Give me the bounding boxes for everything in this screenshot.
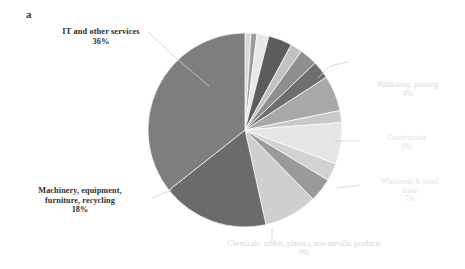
callout-pct-publishing-printing: 4% — [356, 90, 460, 99]
callout-pct-machinery-equipment: 18% — [14, 205, 146, 215]
callout-pct-wholesale-retail-trade: 7% — [362, 195, 458, 204]
callout-pct-construction: 6% — [362, 143, 452, 152]
callout-construction: Construction 6% — [362, 134, 452, 151]
callout-label-chemicals-rubber-plastics: Chemicals, rubber, plastics, non-metalli… — [227, 239, 380, 248]
pie-slice-group — [148, 33, 342, 227]
callout-pct-it-and-other-services: 36% — [41, 37, 161, 47]
callout-label-construction: Construction — [387, 133, 426, 142]
callout-label-machinery-line1: Machinery, equipment, — [38, 186, 121, 195]
callout-label-wholesale-line1: Wholesale & retail — [381, 177, 439, 186]
callout-machinery-equipment: Machinery, equipment, furniture, recycli… — [14, 186, 146, 215]
callout-pct-chemicals-rubber-plastics: 9% — [180, 249, 428, 258]
callout-publishing-printing: Publishing, printing 4% — [356, 81, 460, 98]
chart-canvas: a IT and other services 36% Machinery, e… — [0, 0, 465, 269]
callout-chemicals-rubber-plastics: Chemicals, rubber, plastics, non-metalli… — [180, 240, 428, 257]
callout-wholesale-retail-trade: Wholesale & retail trade 7% — [362, 178, 458, 204]
callout-label-it-and-other-services: IT and other services — [62, 27, 139, 36]
callout-label-publishing-printing: Publishing, printing — [378, 80, 439, 89]
callout-it-and-other-services: IT and other services 36% — [41, 27, 161, 47]
leader-line-machinery-equipment — [152, 190, 172, 198]
leader-line-wholesale-retail-trade — [336, 185, 360, 188]
callout-label-machinery-line2: furniture, recycling — [14, 196, 146, 206]
